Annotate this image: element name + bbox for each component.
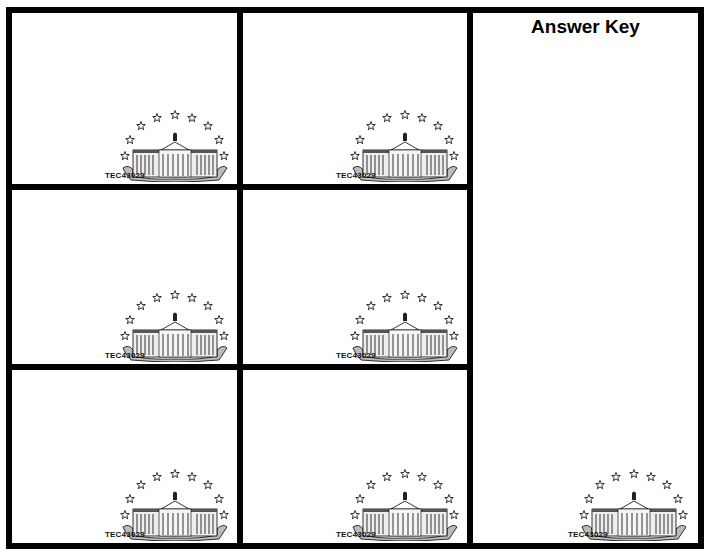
- product-code: TEC43029: [105, 530, 145, 539]
- product-code: TEC43029: [105, 171, 145, 180]
- card-5: TEC43029: [12, 370, 237, 543]
- card-6: TEC43029: [243, 370, 467, 543]
- answer-key-panel: Answer Key TEC43029: [473, 13, 698, 543]
- card-1: TEC43029: [12, 13, 237, 184]
- card-2: TEC43029: [243, 13, 467, 184]
- product-code: TEC43029: [336, 530, 376, 539]
- product-code: TEC43029: [105, 351, 145, 360]
- product-code: TEC43029: [336, 351, 376, 360]
- worksheet: TEC43029 TEC43029 Answer Key TEC43029 TE…: [6, 7, 704, 549]
- card-4: TEC43029: [243, 190, 467, 364]
- card-3: TEC43029: [12, 190, 237, 364]
- product-code: TEC43029: [568, 530, 608, 539]
- product-code: TEC43029: [336, 171, 376, 180]
- answer-key-title: Answer Key: [473, 16, 698, 38]
